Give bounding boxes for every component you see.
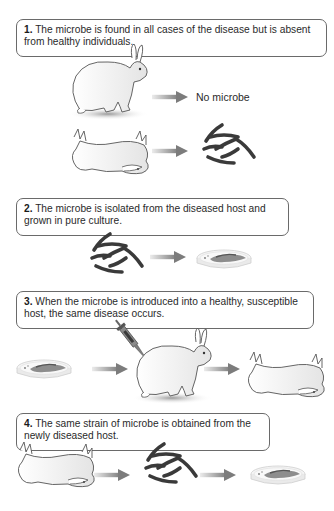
arrow-icon [94, 468, 134, 482]
arrow-icon [152, 144, 192, 158]
arrow-icon [200, 468, 240, 482]
step-2-number: 2. [24, 203, 33, 214]
dead-rabbit-illustration [240, 346, 332, 402]
microbes-illustration [142, 440, 202, 486]
step-3-caption: 3. When the microbe is introduced into a… [16, 291, 314, 329]
arrow-icon [152, 90, 192, 104]
step-2-text: The microbe is isolated from the disease… [24, 203, 266, 226]
step-1-number: 1. [24, 24, 33, 35]
petri-dish-illustration [14, 352, 78, 386]
step-3-number: 3. [24, 296, 33, 307]
arrow-icon [204, 362, 244, 376]
no-microbe-label: No microbe [196, 91, 250, 103]
step-4-number: 4. [24, 418, 33, 429]
dead-rabbit-illustration [64, 125, 156, 177]
dead-rabbit-illustration [10, 440, 102, 492]
arrow-icon [150, 250, 190, 264]
petri-dish-illustration [250, 460, 310, 492]
step-1-caption: 1. The microbe is found in all cases of … [16, 19, 327, 57]
petri-dish-illustration [196, 244, 256, 274]
step-1-text: The microbe is found in all cases of the… [24, 24, 310, 47]
healthy-rabbit-illustration [66, 52, 156, 122]
microbes-illustration [200, 121, 260, 167]
step-2-caption: 2. The microbe is isolated from the dise… [16, 198, 289, 236]
microbes-illustration [88, 230, 148, 276]
step-4-text: The same strain of microbe is obtained f… [24, 418, 251, 441]
step-3-text: When the microbe is introduced into a he… [24, 296, 298, 319]
